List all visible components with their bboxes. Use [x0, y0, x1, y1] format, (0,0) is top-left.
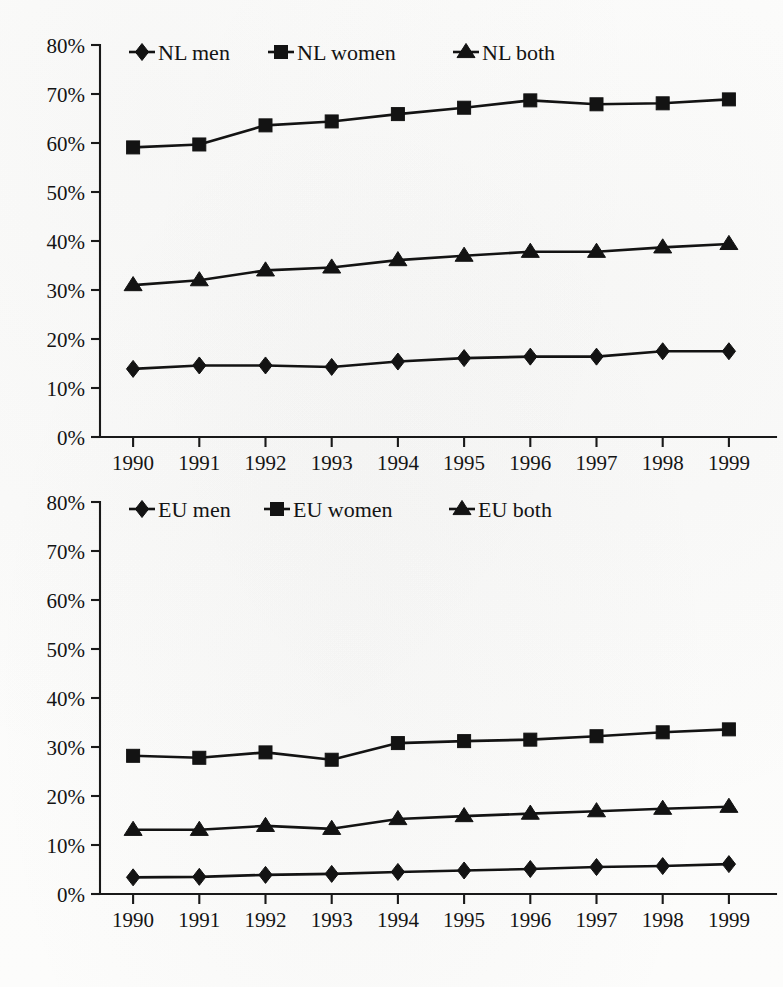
nl-line-chart: 0%10%20%30%40%50%60%70%80%19901991199219…	[0, 0, 783, 487]
data-point-marker	[259, 119, 272, 132]
x-axis-tick-label: 1993	[311, 451, 353, 475]
data-point-marker	[124, 821, 142, 835]
series-eu-women	[127, 723, 736, 766]
legend-item-eu-women: EU women	[264, 497, 393, 522]
x-axis-tick-label: 1990	[112, 451, 154, 475]
data-point-marker	[722, 856, 735, 873]
data-point-marker	[193, 868, 206, 885]
data-point-marker	[391, 108, 404, 121]
data-point-marker	[126, 360, 139, 377]
chart-nl-panel: 0%10%20%30%40%50%60%70%80%19901991199219…	[0, 0, 783, 487]
x-axis-tick-label: 1992	[245, 908, 287, 932]
data-point-marker	[391, 353, 404, 370]
legend-marker-diamond	[135, 501, 148, 518]
y-axis-tick-label: 40%	[47, 687, 86, 711]
y-axis-tick-label: 80%	[47, 34, 86, 58]
x-axis-tick-label: 1993	[311, 908, 353, 932]
data-point-marker	[722, 723, 735, 736]
y-axis-tick-label: 50%	[47, 181, 86, 205]
chart-eu-panel: 0%10%20%30%40%50%60%70%80%19901991199219…	[0, 480, 783, 987]
data-point-marker	[656, 726, 669, 739]
series-nl-both	[124, 235, 738, 290]
data-point-marker	[325, 865, 338, 882]
series-eu-both	[124, 798, 738, 835]
y-axis-tick-label: 70%	[47, 540, 86, 564]
series-nl-men	[126, 343, 735, 378]
legend-marker-square	[271, 503, 284, 516]
y-axis-tick-label: 40%	[47, 230, 86, 254]
data-point-marker	[521, 243, 539, 257]
data-point-marker	[722, 343, 735, 360]
y-axis-tick-label: 30%	[47, 279, 86, 303]
x-axis-tick-label: 1999	[708, 451, 750, 475]
y-axis-tick-label: 80%	[47, 491, 86, 515]
data-point-marker	[590, 98, 603, 111]
x-axis-tick-label: 1997	[576, 451, 618, 475]
data-point-marker	[193, 357, 206, 374]
legend-label: EU both	[478, 497, 552, 522]
legend-item-nl-women: NL women	[268, 40, 396, 65]
y-axis-tick-label: 30%	[47, 736, 86, 760]
data-point-marker	[193, 138, 206, 151]
x-axis-tick-label: 1991	[178, 451, 220, 475]
data-point-marker	[720, 235, 738, 249]
data-point-marker	[458, 735, 471, 748]
data-point-marker	[391, 863, 404, 880]
data-point-marker	[259, 866, 272, 883]
data-point-marker	[720, 798, 738, 812]
legend-item-eu-men: EU men	[129, 497, 231, 522]
y-axis-tick-label: 20%	[47, 328, 86, 352]
data-point-marker	[127, 749, 140, 762]
data-point-marker	[524, 94, 537, 107]
x-axis-tick-label: 1999	[708, 908, 750, 932]
data-point-marker	[457, 862, 470, 879]
y-axis-tick-label: 10%	[47, 834, 86, 858]
y-axis-tick-label: 60%	[47, 589, 86, 613]
legend-item-eu-both: EU both	[449, 497, 552, 522]
legend-label: NL both	[482, 40, 555, 65]
data-point-marker	[325, 358, 338, 375]
data-point-marker	[722, 93, 735, 106]
x-axis-tick-label: 1998	[642, 908, 684, 932]
data-point-marker	[524, 348, 537, 365]
x-axis-tick-label: 1996	[509, 451, 551, 475]
series-line	[133, 807, 729, 830]
legend-item-nl-both: NL both	[453, 40, 555, 65]
legend-marker-triangle	[453, 500, 471, 514]
x-axis-tick-label: 1991	[178, 908, 220, 932]
data-point-marker	[524, 733, 537, 746]
data-point-marker	[656, 343, 669, 360]
y-axis-tick-label: 20%	[47, 785, 86, 809]
series-line	[133, 729, 729, 759]
data-point-marker	[656, 97, 669, 110]
data-point-marker	[259, 357, 272, 374]
data-point-marker	[590, 348, 603, 365]
data-point-marker	[524, 861, 537, 878]
data-point-marker	[259, 746, 272, 759]
eu-line-chart: 0%10%20%30%40%50%60%70%80%19901991199219…	[0, 480, 783, 987]
data-point-marker	[457, 350, 470, 367]
data-point-marker	[391, 737, 404, 750]
data-point-marker	[257, 817, 275, 831]
data-point-marker	[325, 753, 338, 766]
legend-marker-triangle	[457, 43, 475, 57]
legend-label: EU women	[293, 497, 393, 522]
legend-marker-square	[275, 46, 288, 59]
series-eu-men	[126, 856, 735, 886]
data-point-marker	[126, 869, 139, 886]
legend-label: EU men	[158, 497, 231, 522]
series-line	[133, 244, 729, 285]
x-axis-tick-label: 1992	[245, 451, 287, 475]
data-point-marker	[656, 858, 669, 875]
series-line	[133, 864, 729, 877]
x-axis-tick-label: 1994	[377, 908, 420, 932]
x-axis-tick-label: 1995	[443, 908, 485, 932]
x-axis-tick-label: 1997	[576, 908, 618, 932]
y-axis-tick-label: 70%	[47, 83, 86, 107]
legend-item-nl-men: NL men	[129, 40, 230, 65]
y-axis-tick-label: 0%	[57, 426, 85, 450]
chart-legend: EU menEU womenEU both	[129, 497, 552, 522]
series-line	[133, 351, 729, 369]
x-axis-tick-label: 1998	[642, 451, 684, 475]
y-axis-tick-label: 0%	[57, 883, 85, 907]
